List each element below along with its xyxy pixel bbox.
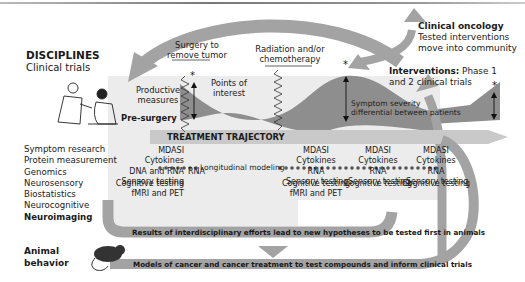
- clinical-oncology-line2: move into community: [418, 43, 517, 53]
- productive-line2: measures: [131, 96, 185, 106]
- measure-item: Cognitive testing: [108, 179, 184, 189]
- measures-pre-bottom: Cognitive testing fMRI and PET: [108, 179, 184, 200]
- results-bar-text: Results of interdisciplinary efforts lea…: [132, 228, 485, 237]
- pre-surgery-label: Pre-surgery: [121, 114, 177, 124]
- discipline-item: Symptom research: [24, 144, 117, 155]
- models-bar-text: Models of cancer and cancer treatment to…: [133, 260, 472, 269]
- animal-label-line2: behavior: [24, 258, 69, 268]
- surgery-label-line2: remove tumor: [160, 51, 234, 61]
- clinical-oncology-title: Clinical oncology: [418, 21, 504, 31]
- measure-item: Cytokines: [406, 156, 466, 166]
- measure-item: Cytokines: [348, 156, 408, 166]
- discipline-item: Neuroimaging: [24, 212, 117, 223]
- interventions-title: Interventions:: [389, 66, 459, 76]
- measure-item: MDASI: [108, 146, 184, 156]
- treatment-trajectory-label: TREATMENT TRAJECTORY: [167, 132, 285, 142]
- interventions-line1: Interventions: Phase 1: [389, 66, 497, 76]
- measure-item: MDASI: [348, 146, 408, 156]
- radiation-label-line2: chemotherapy: [240, 55, 340, 65]
- interventions-line2: and 2 clinical trials: [389, 77, 472, 87]
- discipline-item: Genomics: [24, 167, 117, 178]
- down-arrowhead: [258, 246, 288, 258]
- measure-item: RNA: [286, 167, 346, 177]
- disciplines-subtitle: Clinical trials: [26, 62, 90, 74]
- discipline-item: Protein measurement: [24, 155, 117, 166]
- discipline-item: Neurosensory: [24, 178, 117, 189]
- animal-label-line1: Animal: [24, 246, 59, 256]
- measure-item: Cytokines: [108, 156, 184, 166]
- measure-item: MDASI: [286, 146, 346, 156]
- measure-item: fMRI and PET: [108, 189, 184, 199]
- asterisk-surgery: *: [190, 70, 195, 82]
- disciplines-title: DISCIPLINES: [26, 49, 100, 61]
- measure-item: MDASI: [406, 146, 466, 156]
- measures-col4-bottom: Cognitive testing: [400, 179, 472, 189]
- interventions-phase: Phase 1: [459, 66, 496, 76]
- asterisk-radiation: *: [343, 59, 348, 71]
- measure-item: Cytokines: [286, 156, 346, 166]
- measure-item: Cognitive testing: [400, 179, 472, 189]
- asterisk-intervention: *: [492, 80, 497, 92]
- disciplines-list: Symptom research Protein measurement Gen…: [24, 144, 117, 223]
- longitudinal-label: Longitudinal modeling: [200, 164, 285, 173]
- measure-item: fMRI and PET: [280, 189, 352, 199]
- points-line2: interest: [204, 89, 254, 99]
- measure-item: RNA: [406, 167, 466, 177]
- severity-line2: differential between patients: [351, 109, 461, 118]
- to-oncology-arrowhead: [404, 8, 426, 22]
- measure-item: RNA: [348, 167, 408, 177]
- discipline-item: Neurocognitive: [24, 200, 117, 211]
- discipline-item: Biostatistics: [24, 189, 117, 200]
- measure-item: DNA and RNA: [108, 167, 184, 177]
- clinical-oncology-line1: Tested interventions: [418, 32, 509, 42]
